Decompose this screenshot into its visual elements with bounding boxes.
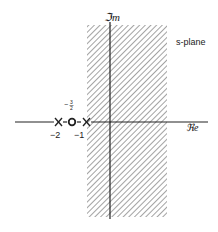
tick-label-minus-one: −1: [74, 130, 84, 140]
svg-text:2: 2: [70, 105, 73, 111]
imaginary-axis-label: ℑm: [104, 11, 120, 23]
pole-x-icon: [55, 118, 62, 126]
s-plane-diagram: ℑm s-plane ℜe −2 −1 − 3 2: [0, 0, 218, 232]
real-axis-label: ℜe: [186, 122, 199, 133]
svg-text:−: −: [64, 101, 68, 108]
zero-o-icon: [69, 119, 76, 126]
hatched-region: [87, 25, 167, 217]
plane-title: s-plane: [176, 37, 206, 47]
tick-label-minus-three-halves: − 3 2: [64, 99, 74, 111]
tick-label-minus-two: −2: [50, 130, 60, 140]
